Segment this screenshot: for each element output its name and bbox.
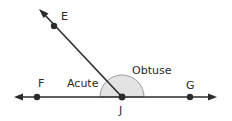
angle-diagram: E F G J Acute Obtuse xyxy=(0,0,232,121)
point-e xyxy=(51,23,57,29)
label-g: G xyxy=(186,79,195,92)
label-acute: Acute xyxy=(67,77,99,90)
diagram-canvas: E F G J Acute Obtuse xyxy=(0,0,232,121)
point-j xyxy=(119,94,126,101)
point-g xyxy=(187,94,193,100)
arrow-left-icon xyxy=(14,94,23,101)
label-f: F xyxy=(38,77,44,90)
label-j: J xyxy=(118,104,122,117)
label-e: E xyxy=(61,10,68,23)
label-obtuse: Obtuse xyxy=(132,64,172,77)
point-f xyxy=(34,94,40,100)
arrow-right-icon xyxy=(208,94,217,101)
